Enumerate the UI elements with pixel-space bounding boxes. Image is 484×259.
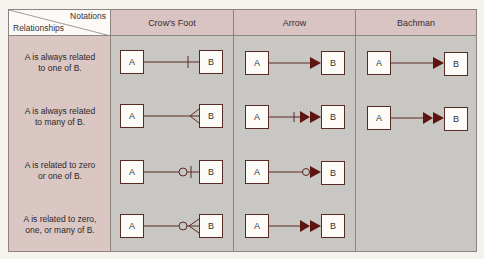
entity-a-box: A bbox=[367, 51, 391, 75]
entity-b-box: B bbox=[444, 107, 468, 131]
entity-b-box: B bbox=[444, 52, 468, 76]
bachman-one-icon bbox=[391, 57, 444, 69]
entity-a-box: A bbox=[367, 106, 391, 130]
entity-a-box: A bbox=[120, 50, 144, 74]
entity-b-box: B bbox=[321, 105, 345, 129]
crows-foot-zero-or-many-icon bbox=[144, 219, 199, 233]
crows-foot-many-icon bbox=[144, 109, 199, 123]
entity-b-box: B bbox=[199, 160, 223, 184]
notation-comparison-table: Notations Relationships Crow's Foot Arro… bbox=[8, 9, 477, 252]
arrow-many-icon bbox=[269, 111, 321, 123]
entity-b-box: B bbox=[199, 104, 223, 128]
entity-a-box: A bbox=[120, 104, 144, 128]
crows-foot-zero-or-one-icon bbox=[144, 166, 199, 178]
entity-b-box: B bbox=[199, 214, 223, 238]
entity-b-box: B bbox=[321, 161, 345, 185]
crows-foot-one-icon bbox=[144, 56, 199, 68]
entity-a-box: A bbox=[245, 105, 269, 129]
entity-b-box: B bbox=[321, 51, 345, 75]
entity-a-box: A bbox=[245, 214, 269, 238]
bachman-many-icon bbox=[391, 112, 444, 124]
entity-b-box: B bbox=[321, 214, 345, 238]
connectors-layer bbox=[9, 10, 478, 253]
arrow-zero-or-many-icon bbox=[269, 220, 321, 232]
arrow-one-icon bbox=[269, 57, 321, 69]
entity-a-box: A bbox=[120, 214, 144, 238]
entity-a-box: A bbox=[120, 160, 144, 184]
entity-b-box: B bbox=[199, 50, 223, 74]
arrow-zero-or-one-icon bbox=[269, 166, 321, 178]
entity-a-box: A bbox=[245, 51, 269, 75]
entity-a-box: A bbox=[245, 160, 269, 184]
